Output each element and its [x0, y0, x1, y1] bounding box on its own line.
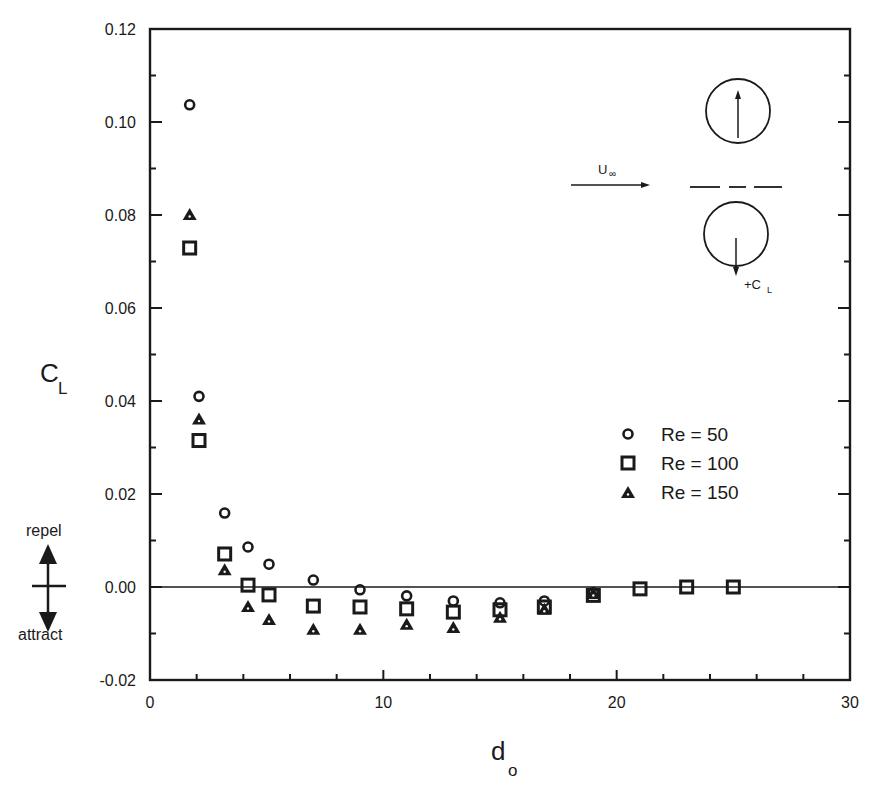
- square-marker-icon: [622, 457, 634, 469]
- circle-marker-icon: [220, 509, 229, 518]
- circle-marker-icon: [449, 596, 458, 605]
- square-marker-icon: [401, 603, 413, 615]
- x-axis-title-subscript: o: [508, 761, 517, 780]
- square-marker-icon: [634, 583, 646, 595]
- x-axis-title: d: [491, 736, 505, 766]
- triangle-marker-icon: [262, 613, 276, 625]
- y-tick-label: 0.02: [105, 486, 136, 503]
- circle-marker-icon: [624, 430, 633, 439]
- legend-label: Re = 50: [661, 424, 728, 445]
- down-arrow-icon: [733, 267, 739, 276]
- attract-label: attract: [18, 626, 63, 643]
- circle-marker-icon: [185, 100, 194, 109]
- up-arrow-icon: [735, 90, 741, 99]
- y-tick-label: -0.02: [100, 672, 137, 689]
- x-tick-label: 0: [146, 694, 155, 711]
- triangle-marker-icon: [183, 208, 197, 220]
- triangle-marker-icon: [446, 621, 460, 633]
- triangle-marker-icon: [400, 618, 414, 630]
- triangle-marker-icon: [306, 623, 320, 635]
- legend-item-re100: Re = 100: [622, 453, 739, 474]
- repel-label: repel: [26, 522, 62, 539]
- square-marker-icon: [193, 435, 205, 447]
- triangle-marker-icon: [192, 413, 206, 425]
- circle-marker-icon: [195, 392, 204, 401]
- lift-coefficient-chart: 0102030-0.020.000.020.040.060.080.100.12…: [0, 0, 880, 789]
- freestream-velocity-label: U: [598, 162, 607, 177]
- circle-marker-icon: [244, 543, 253, 552]
- y-tick-label: 0.06: [105, 300, 136, 317]
- square-marker-icon: [447, 606, 459, 618]
- y-tick-label: 0.10: [105, 114, 136, 131]
- y-axis-title: C: [40, 358, 59, 388]
- triangle-marker-icon: [353, 623, 367, 635]
- series-circle: [185, 100, 598, 607]
- square-marker-icon: [263, 589, 275, 601]
- positive-lift-subscript: L: [767, 285, 772, 295]
- y-tick-label: 0.00: [105, 579, 136, 596]
- freestream-velocity-subscript: ∞: [609, 168, 616, 179]
- square-marker-icon: [307, 600, 319, 612]
- triangle-marker-icon: [621, 486, 635, 498]
- y-tick-label: 0.08: [105, 207, 136, 224]
- triangle-marker-icon: [218, 563, 232, 575]
- legend-label: Re = 100: [661, 453, 739, 474]
- y-tick-label: 0.12: [105, 21, 136, 38]
- y-axis-title-subscript: L: [58, 379, 67, 398]
- square-marker-icon: [242, 579, 254, 591]
- circle-marker-icon: [402, 591, 411, 600]
- data-markers: [183, 100, 740, 634]
- circle-marker-icon: [265, 560, 274, 569]
- x-tick-label: 20: [608, 694, 626, 711]
- circle-marker-icon: [309, 576, 318, 585]
- y-tick-label: 0.04: [105, 393, 136, 410]
- legend: Re = 50 Re = 100 Re = 150: [621, 424, 739, 503]
- axis-tick-labels: 0102030-0.020.000.020.040.060.080.100.12: [100, 21, 859, 711]
- square-marker-icon: [219, 548, 231, 560]
- repel-attract-arrow-icon: [32, 544, 66, 632]
- legend-item-re150: Re = 150: [621, 482, 739, 503]
- x-tick-label: 30: [841, 694, 859, 711]
- legend-label: Re = 150: [661, 482, 739, 503]
- legend-item-re50: Re = 50: [624, 424, 729, 445]
- square-marker-icon: [184, 242, 196, 254]
- positive-lift-label: +C: [744, 277, 761, 292]
- series-triangle: [183, 208, 601, 635]
- flow-inset-diagram: U ∞ +C L: [571, 79, 782, 295]
- x-tick-label: 10: [374, 694, 392, 711]
- square-marker-icon: [354, 601, 366, 613]
- triangle-marker-icon: [241, 600, 255, 612]
